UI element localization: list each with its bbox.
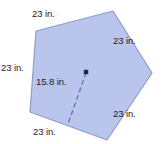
side-length-label-bottom-right: 23 in. <box>113 108 136 119</box>
side-length-label-bottom: 23 in. <box>33 126 56 137</box>
side-length-label-left: 23 in. <box>1 62 24 73</box>
apothem-length-label: 15.8 in. <box>36 76 66 87</box>
geometry-figure-canvas: 23 in. 23 in. 23 in. 23 in. 23 in. 15.8 … <box>0 0 162 144</box>
center-point-dot <box>84 70 88 74</box>
side-length-label-top: 23 in. <box>32 8 55 19</box>
side-length-label-top-right: 23 in. <box>113 35 136 46</box>
pentagon-diagram <box>0 0 162 144</box>
